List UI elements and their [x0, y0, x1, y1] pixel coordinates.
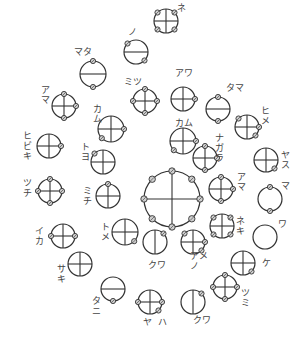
label-tama: タマ [226, 83, 244, 93]
label-saki: サ キ [57, 264, 66, 284]
symbol-tsuchi [35, 176, 64, 205]
symbol-tama [206, 94, 230, 123]
symbol-kuwaL [143, 230, 167, 254]
symbol-kamuL [98, 116, 127, 142]
label-kamuC: カム [175, 118, 193, 128]
symbol-maR [258, 184, 282, 213]
symbol-saki [68, 252, 92, 276]
label-mitsu: ミツ [124, 77, 142, 87]
label-awa: アワ [175, 68, 193, 78]
symbol-ke [231, 251, 255, 275]
symbol-awa [171, 87, 198, 111]
label-ke: ケ [262, 258, 271, 268]
symbol-michi [96, 181, 120, 208]
label-kuwaL: クワ [148, 260, 166, 270]
label-mata: マタ [74, 47, 92, 57]
symbol-tani [101, 277, 125, 304]
label-amaR: ア マ [237, 172, 246, 192]
symbol-yaha [135, 290, 164, 314]
label-nomea: アメ ノ [190, 251, 208, 271]
label-tsuchi: ツ チ [23, 178, 32, 198]
symbol-amaR [209, 174, 236, 203]
symbol-mata [80, 58, 106, 89]
label-maR: マ [281, 181, 290, 191]
label-yaha: ヤ ハ [143, 317, 167, 327]
label-kuwaB: クワ [193, 315, 211, 325]
symbol-kuwaB [181, 290, 205, 314]
symbol-ne-top [154, 9, 178, 33]
symbol-tsumi [210, 272, 239, 301]
label-tani: タ ニ [92, 296, 101, 316]
symbol-hime [235, 115, 262, 139]
symbol-tome [112, 219, 138, 245]
label-yasuma: ヤ ス [281, 150, 290, 170]
symbol-neki [210, 214, 234, 238]
symbol-hibiki [37, 134, 64, 158]
symbol-no [124, 40, 148, 64]
label-hime: ヒ メ [261, 106, 270, 126]
symbol-wa [253, 225, 277, 249]
symbol-kamuC [170, 128, 199, 154]
label-toyo: ト ヨ [81, 142, 90, 162]
symbol-toyo [91, 150, 115, 174]
label-no: ノ [128, 27, 137, 37]
label-amaL: ア マ [41, 85, 50, 105]
symbol-yasuma [254, 148, 278, 172]
label-nagara: ナ ガ ラ [215, 133, 224, 163]
label-ne-top: ネ [177, 3, 186, 13]
symbol-amaL [52, 91, 79, 120]
diagram-svg [0, 0, 303, 347]
symbol-mitsu [130, 86, 159, 115]
mandala-diagram: ネノマタア マミツアワタマカ ムヒ メカムナ ガ ラヒ ビ キト ヨヤ スツ チ… [0, 0, 303, 347]
label-hibiki: ヒ ビ キ [23, 131, 32, 161]
symbol-ika [48, 224, 77, 248]
label-kamuL: カ ム [93, 104, 102, 124]
symbol-center [141, 168, 203, 230]
label-tsumi: ツ ミ [241, 288, 250, 308]
label-ika: イ カ [35, 226, 44, 246]
label-michi: ミ チ [83, 186, 92, 206]
label-tome: ト メ [101, 222, 110, 242]
label-wa: ワ [278, 219, 287, 229]
label-neki: ネ キ [236, 216, 245, 236]
